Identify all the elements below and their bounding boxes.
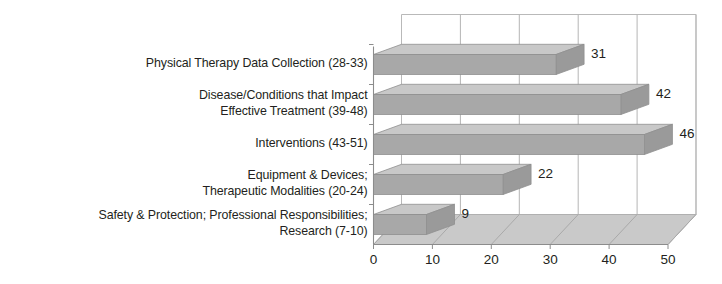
category-label: Interventions (43-51) [38,136,368,152]
x-tick-label: 10 [417,252,447,267]
bar-value-label: 31 [591,46,606,61]
bar [374,164,532,194]
bar-chart: Safety & Protection; Professional Respon… [0,0,722,284]
category-label: Physical Therapy Data Collection (28-33) [38,56,368,72]
category-axis-ticks [369,45,374,205]
bar [374,124,673,154]
x-tick-label: 50 [653,252,683,267]
category-label: Safety & Protection; Professional Respon… [38,208,368,239]
x-tick-label: 20 [476,252,506,267]
x-tick-label: 30 [535,252,565,267]
bar-value-label: 46 [679,126,694,141]
category-label: Equipment & Devices; Therapeutic Modalit… [38,168,368,199]
x-tick-label: 40 [594,252,624,267]
bar [374,44,585,74]
bar-value-label: 42 [656,86,671,101]
bar-value-label: 22 [538,166,553,181]
bar [374,84,649,114]
value-axis-ticks [374,245,669,250]
bar-value-label: 9 [462,206,470,221]
x-tick-label: 0 [359,252,389,267]
category-label: Disease/Conditions that Impact Effective… [38,88,368,119]
